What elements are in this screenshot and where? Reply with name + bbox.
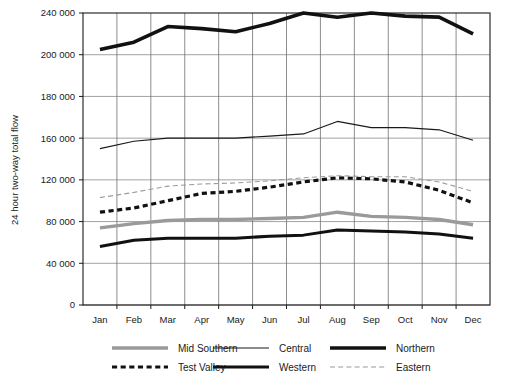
y-tick-labels: 240 000200 000180 000160 000120 00080 00… [41, 7, 75, 310]
x-tick-label: Mar [160, 314, 176, 325]
x-tick-label: Dec [465, 314, 482, 325]
y-axis-title: 24 hour two-way total flow [9, 115, 20, 225]
x-tick-label: Sep [363, 314, 380, 325]
x-axis-ticks [117, 305, 456, 309]
legend-label-eastern: Eastern [396, 362, 430, 373]
legend: Mid SouthernCentralNorthernTest ValleyWe… [112, 343, 435, 373]
line-chart: 24 hour two-way total flow 240 000200 00… [0, 0, 514, 392]
legend-label-central: Central [279, 343, 311, 354]
vertical-gridlines [117, 13, 456, 305]
y-tick-label: 0 [70, 299, 75, 310]
y-tick-label: 80 000 [46, 216, 75, 227]
chart-page: 24 hour two-way total flow 240 000200 00… [0, 0, 514, 392]
y-tick-label: 200 000 [41, 49, 75, 60]
x-tick-label: Nov [431, 314, 448, 325]
y-tick-label: 40 000 [46, 258, 75, 269]
x-axis-tick-labels: JanFebMarAprMayJunJulAugSepOctNovDec [92, 314, 481, 325]
x-tick-label: Oct [398, 314, 413, 325]
x-tick-label: Jan [92, 314, 107, 325]
y-tick-label: 180 000 [41, 91, 75, 102]
y-axis-ticks [79, 13, 83, 305]
y-tick-label: 240 000 [41, 7, 75, 18]
x-tick-label: Apr [194, 314, 209, 325]
legend-label-western: Western [279, 362, 316, 373]
x-tick-label: May [227, 314, 245, 325]
y-axis-title-text: 24 hour two-way total flow [9, 115, 20, 225]
x-tick-label: Jul [297, 314, 309, 325]
x-tick-label: Jun [262, 314, 277, 325]
y-tick-label: 160 000 [41, 133, 75, 144]
x-tick-label: Feb [126, 314, 142, 325]
y-tick-label: 120 000 [41, 174, 75, 185]
x-tick-label: Aug [329, 314, 346, 325]
legend-label-northern: Northern [396, 343, 435, 354]
